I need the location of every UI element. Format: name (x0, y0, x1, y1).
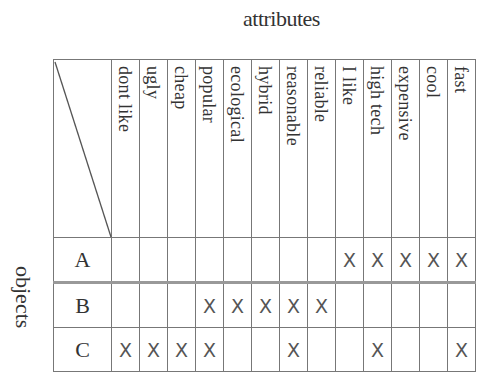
attribute-label: fast (450, 66, 471, 93)
attribute-label: ugly (142, 66, 163, 99)
empty-cell (280, 238, 308, 283)
attributes-title: attributes (243, 6, 320, 32)
attribute-label: ecological (226, 66, 247, 143)
attribute-header-cool: cool (420, 60, 448, 238)
empty-cell (140, 283, 168, 328)
cross-mark-cell: X (420, 238, 448, 283)
attribute-label: dont like (114, 66, 135, 132)
empty-cell (392, 283, 420, 328)
attribute-label: cool (422, 66, 443, 98)
attribute-header-fast: fast (448, 60, 476, 238)
attribute-label: cheap (170, 66, 191, 109)
empty-cell (448, 283, 476, 328)
cross-mark-cell: X (280, 283, 308, 328)
cross-mark-cell: X (224, 283, 252, 328)
cross-mark-cell: X (280, 328, 308, 372)
empty-cell (224, 328, 252, 372)
cross-mark-cell: X (364, 328, 392, 372)
cross-mark-cell: X (364, 238, 392, 283)
object-row-a: AXXXXX (54, 238, 476, 283)
cross-mark-cell: X (336, 238, 364, 283)
empty-cell (168, 238, 196, 283)
empty-cell (392, 328, 420, 372)
attribute-header-cheap: cheap (168, 60, 196, 238)
attribute-header-high-tech: high tech (364, 60, 392, 238)
object-label: A (54, 238, 112, 283)
empty-cell (196, 238, 224, 283)
empty-cell (252, 328, 280, 372)
object-label: C (54, 328, 112, 372)
empty-cell (308, 328, 336, 372)
context-table: dont likeuglycheappopularecologicalhybri… (53, 59, 476, 372)
empty-cell (420, 328, 448, 372)
empty-cell (140, 238, 168, 283)
object-row-b: BXXXXX (54, 283, 476, 328)
empty-cell (168, 283, 196, 328)
empty-cell (364, 283, 392, 328)
cross-mark-cell: X (448, 328, 476, 372)
attribute-label: hybrid (254, 66, 275, 115)
attribute-header-hybrid: hybrid (252, 60, 280, 238)
cross-mark-cell: X (252, 283, 280, 328)
attribute-label: popular (198, 66, 219, 123)
objects-label-container: objects (10, 300, 40, 330)
cross-mark-cell: X (140, 328, 168, 372)
empty-cell (224, 238, 252, 283)
attribute-header-reliable: reliable (308, 60, 336, 238)
empty-cell (336, 283, 364, 328)
attribute-label: expensive (394, 66, 415, 141)
attribute-header-dont-like: dont like (112, 60, 140, 238)
object-label: B (54, 283, 112, 328)
cross-mark-cell: X (112, 328, 140, 372)
cross-mark-cell: X (196, 328, 224, 372)
attribute-header-ecological: ecological (224, 60, 252, 238)
attribute-header-i-like: I like (336, 60, 364, 238)
cross-mark-cell: X (168, 328, 196, 372)
cross-mark-cell: X (448, 238, 476, 283)
empty-cell (420, 283, 448, 328)
objects-label: objects (10, 266, 36, 328)
empty-cell (252, 238, 280, 283)
cross-mark-cell: X (308, 283, 336, 328)
attribute-label: high tech (366, 66, 387, 135)
attribute-header-ugly: ugly (140, 60, 168, 238)
object-row-c: CXXXXXXX (54, 328, 476, 372)
attribute-label: reliable (310, 66, 331, 122)
empty-cell (336, 328, 364, 372)
attribute-header-row: dont likeuglycheappopularecologicalhybri… (54, 60, 476, 238)
corner-cell (54, 60, 112, 238)
attribute-header-reasonable: reasonable (280, 60, 308, 238)
empty-cell (112, 283, 140, 328)
attribute-header-expensive: expensive (392, 60, 420, 238)
diagonal-line (54, 60, 112, 238)
cross-mark-cell: X (196, 283, 224, 328)
attribute-label: reasonable (282, 66, 303, 146)
attribute-header-popular: popular (196, 60, 224, 238)
cross-mark-cell: X (392, 238, 420, 283)
attribute-label: I like (338, 66, 359, 105)
empty-cell (308, 238, 336, 283)
empty-cell (112, 238, 140, 283)
